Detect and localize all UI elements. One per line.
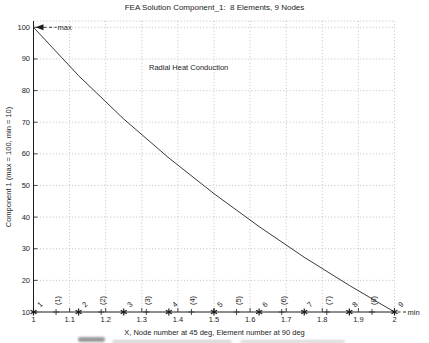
- y-tick-label: 70: [2, 118, 30, 127]
- y-tick-label: 90: [2, 54, 30, 63]
- min-annotation-label: min: [408, 308, 420, 317]
- element-number-label: (1): [53, 289, 62, 313]
- x-tick-label: 1.2: [94, 315, 118, 324]
- x-tick-label: 1.6: [238, 315, 262, 324]
- max-annotation-label: max: [58, 23, 72, 32]
- figure-canvas: FEA Solution Component_1: 8 Elements, 9 …: [0, 0, 429, 343]
- y-tick-label: 100: [2, 23, 30, 32]
- x-tick-label: 2: [383, 315, 407, 324]
- x-tick-label: 1.1: [58, 315, 82, 324]
- x-tick-label: 1.8: [310, 315, 334, 324]
- y-tick-label: 60: [2, 149, 30, 158]
- element-number-label: (5): [233, 289, 242, 313]
- y-tick-label: 20: [2, 276, 30, 285]
- y-tick-label: 10: [2, 308, 30, 317]
- element-number-label: (2): [98, 289, 107, 313]
- y-tick-label: 40: [2, 213, 30, 222]
- y-tick-label: 30: [2, 244, 30, 253]
- element-number-label: (3): [143, 289, 152, 313]
- max-arrowhead-icon: [36, 24, 44, 30]
- plot-area: [0, 0, 429, 343]
- y-tick-label: 80: [2, 86, 30, 95]
- element-number-label: (6): [278, 289, 287, 313]
- element-number-label: (8): [368, 289, 377, 313]
- x-tick-label: 1.3: [130, 315, 154, 324]
- x-tick-label: 1.9: [346, 315, 370, 324]
- x-tick-label: 1.4: [166, 315, 190, 324]
- element-number-label: (7): [323, 289, 332, 313]
- x-tick-label: 1.7: [274, 315, 298, 324]
- y-tick-label: 50: [2, 181, 30, 190]
- element-number-label: (4): [188, 289, 197, 313]
- plot-text-annotation: Radial Heat Conduction: [149, 63, 228, 72]
- x-tick-label: 1.5: [202, 315, 226, 324]
